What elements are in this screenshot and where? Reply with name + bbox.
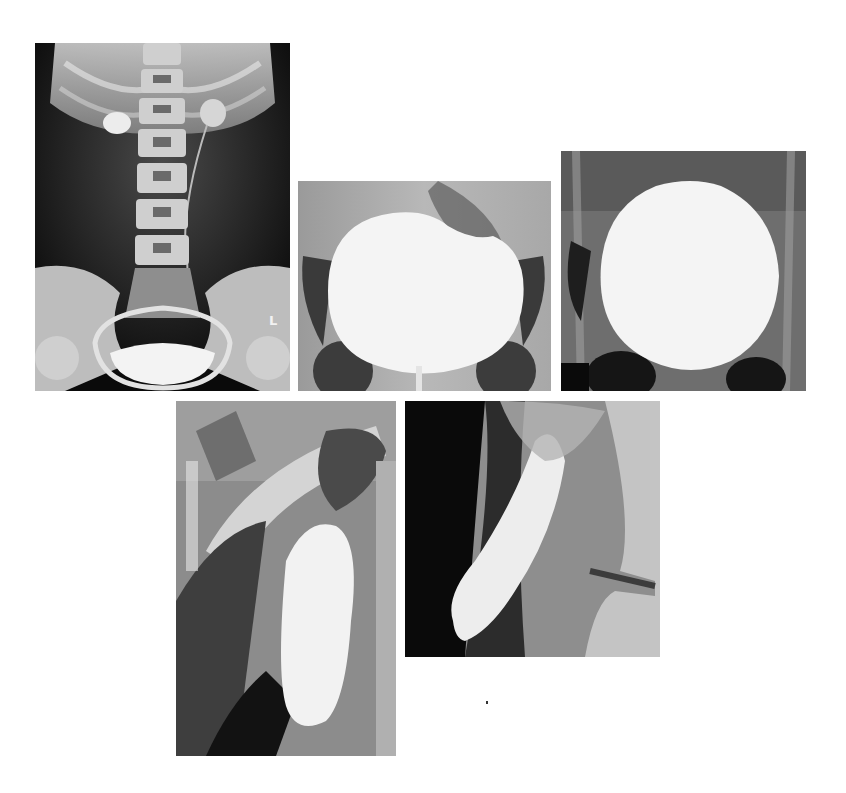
xray-panel-e — [405, 401, 660, 657]
cystogram-image-c — [561, 151, 806, 391]
xray-panel-d — [176, 401, 396, 756]
contrast-study-image-e — [405, 401, 660, 657]
xray-panel-a: L — [35, 43, 290, 391]
scan-speck — [486, 701, 488, 704]
xray-panel-c — [561, 151, 806, 391]
contrast-study-image-d — [176, 401, 396, 756]
abdominal-radiograph-image — [35, 43, 290, 391]
cystogram-image-b — [298, 181, 551, 391]
side-marker-label: L — [269, 313, 277, 328]
xray-panel-b — [298, 181, 551, 391]
